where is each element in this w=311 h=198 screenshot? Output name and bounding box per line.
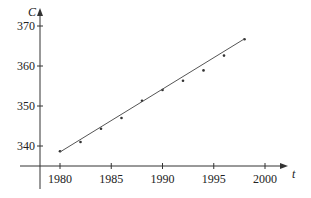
y-tick-label: 350	[17, 99, 35, 113]
labels: 19801985199019952000340350360370tC	[17, 5, 296, 186]
data-point	[223, 54, 226, 57]
x-axis-label: t	[292, 167, 296, 181]
data-point	[182, 80, 185, 83]
series	[59, 38, 246, 153]
regression-line	[60, 39, 245, 152]
x-tick-label: 1995	[202, 172, 226, 186]
y-axis-label: C	[28, 5, 37, 19]
y-tick-label: 340	[17, 139, 35, 153]
x-tick-label: 1990	[151, 172, 175, 186]
axes	[20, 8, 288, 189]
x-tick-label: 1985	[99, 172, 123, 186]
y-axis-arrow-icon	[37, 8, 43, 16]
y-tick-label: 360	[17, 59, 35, 73]
data-point	[120, 117, 123, 120]
x-axis-arrow-icon	[280, 163, 288, 169]
y-tick-label: 370	[17, 19, 35, 33]
chart: 19801985199019952000340350360370tC	[0, 0, 311, 198]
x-tick-label: 1980	[48, 172, 72, 186]
x-tick-label: 2000	[253, 172, 277, 186]
data-point	[79, 141, 82, 144]
data-point	[202, 69, 205, 72]
